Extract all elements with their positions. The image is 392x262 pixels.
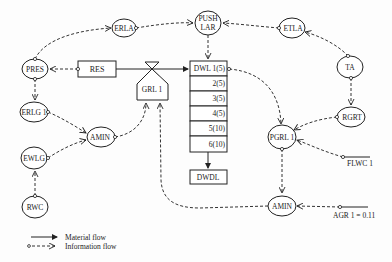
svg-text:ERLA: ERLA (114, 24, 134, 33)
edge-rgrt-pgrl1 (294, 117, 337, 130)
edge-erla-pushlar (136, 23, 193, 28)
legend-info-dot (28, 245, 31, 248)
node-erlg1[interactable]: ERLG 1 (20, 102, 48, 122)
svg-text:GRL 1: GRL 1 (142, 85, 163, 94)
node-amin-left[interactable]: AMIN (87, 127, 115, 147)
dwl-row-2: 2(5) (213, 79, 226, 88)
svg-text:LAR: LAR (201, 23, 216, 32)
dwl-row-5: 5(10) (209, 124, 226, 133)
svg-text:FLWC 1: FLWC 1 (347, 159, 373, 168)
node-dwdl[interactable]: DWDL (190, 170, 227, 184)
node-amin-bottom[interactable]: AMIN (268, 196, 296, 216)
svg-text:TA: TA (345, 63, 355, 72)
svg-text:PUSH: PUSH (198, 14, 218, 23)
node-erla[interactable]: ERLA (112, 19, 136, 37)
edge-flwc1-pgrl1 (297, 140, 343, 157)
node-flwc1[interactable]: FLWC 1 (343, 157, 373, 168)
edge-etla-pushlar (223, 23, 279, 28)
node-etla[interactable]: ETLA (279, 18, 305, 38)
node-pgrl1[interactable]: PGRL 1 (268, 125, 296, 149)
node-ewlg[interactable]: EWLG (21, 147, 47, 169)
node-agr1[interactable]: AGR 1 = 0.11 (333, 207, 376, 220)
legend: Material flow Information flow (28, 233, 117, 251)
svg-text:PRES: PRES (26, 65, 44, 74)
svg-text:RES: RES (90, 65, 105, 74)
svg-text:ERLG 1: ERLG 1 (21, 108, 46, 117)
edge-erlg1-amin (48, 112, 86, 133)
node-rwc[interactable]: RWC (22, 196, 48, 218)
node-ta[interactable]: TA (337, 56, 363, 78)
edge-amin-grl1 (115, 103, 146, 137)
svg-text:AGR 1 = 0.11: AGR 1 = 0.11 (333, 211, 376, 220)
svg-text:RGRT: RGRT (342, 113, 362, 122)
node-dwl-stack[interactable]: DWL 1(5) 2(5) 3(5) 4(5) 5(10) 6(10) (190, 61, 227, 152)
legend-material-label: Material flow (65, 233, 107, 242)
valve-top-icon (145, 62, 159, 69)
svg-text:ETLA: ETLA (283, 24, 303, 33)
node-rgrt[interactable]: RGRT (337, 107, 365, 127)
node-res[interactable]: RES (78, 61, 116, 77)
flow-diagram: ERLA PUSH LAR ETLA PRES RES GRL 1 DWL 1(… (0, 0, 392, 262)
edge-ewlg-amin (48, 140, 86, 158)
svg-text:AMIN: AMIN (272, 202, 293, 211)
svg-text:EWLG: EWLG (23, 154, 45, 163)
node-push-lar[interactable]: PUSH LAR (195, 11, 221, 35)
edge-dwl1-pgrl1 (229, 69, 281, 124)
dwl-row-4: 4(5) (213, 109, 226, 118)
dwl-row-6: 6(10) (209, 140, 226, 149)
dwl-row-1: DWL 1(5) (194, 64, 226, 73)
dwl-row-3: 3(5) (213, 94, 226, 103)
node-pres[interactable]: PRES (22, 59, 48, 79)
legend-information-label: Information flow (65, 242, 117, 251)
svg-text:AMIN: AMIN (90, 133, 111, 142)
node-grl1-valve[interactable]: GRL 1 (137, 62, 168, 100)
edge-pres-erla (35, 28, 111, 59)
svg-text:RWC: RWC (27, 203, 44, 212)
svg-text:PGRL 1: PGRL 1 (270, 133, 295, 142)
svg-text:DWDL: DWDL (197, 173, 220, 182)
edge-agr1-aminb (297, 206, 340, 207)
edge-ta-etla (305, 32, 348, 56)
